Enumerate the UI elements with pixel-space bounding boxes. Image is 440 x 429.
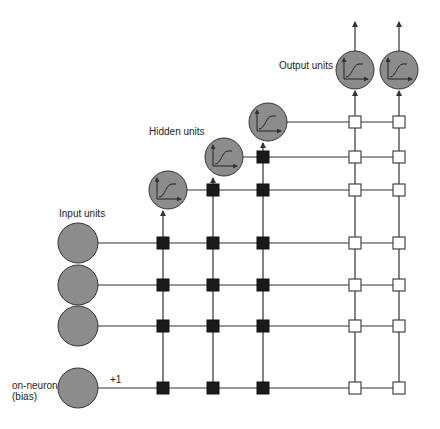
output-units-label: Output units <box>279 60 333 71</box>
weight-square <box>257 237 269 249</box>
hidden-neuron-2 <box>205 138 243 176</box>
weight-square <box>349 279 361 291</box>
weight-square <box>349 184 361 196</box>
hidden-neuron-1 <box>149 171 187 209</box>
input-neuron-2 <box>58 265 98 305</box>
weight-square <box>207 382 219 394</box>
weight-square <box>349 237 361 249</box>
weight-square <box>349 116 361 128</box>
weight-square <box>349 382 361 394</box>
input-neuron-1 <box>58 223 98 263</box>
weight-square <box>393 184 405 196</box>
weight-square <box>207 279 219 291</box>
weight-square <box>257 382 269 394</box>
weight-square <box>207 237 219 249</box>
weight-square <box>257 184 269 196</box>
weight-square <box>207 184 219 196</box>
input-neuron-3 <box>58 306 98 346</box>
bias-neuron <box>58 368 98 408</box>
weight-square <box>393 116 405 128</box>
output-weights <box>349 116 405 394</box>
neural-network-diagram: Output units Hidden units Input units on… <box>0 0 440 429</box>
weight-square <box>349 151 361 163</box>
bias-label-line1: on-neuron <box>12 380 58 391</box>
weight-square <box>257 279 269 291</box>
output-neuron-1 <box>336 51 374 89</box>
input-units-label: Input units <box>59 208 105 219</box>
output-neuron-2 <box>380 51 418 89</box>
weight-square <box>257 151 269 163</box>
weight-square <box>257 320 269 332</box>
weight-square <box>393 237 405 249</box>
weight-square <box>207 320 219 332</box>
hidden-neuron-3 <box>249 103 287 141</box>
weight-square <box>393 279 405 291</box>
output-layer <box>336 51 418 89</box>
weight-square <box>157 382 169 394</box>
weight-square <box>157 320 169 332</box>
hidden-units-label: Hidden units <box>149 126 205 137</box>
bias-value-label: +1 <box>110 374 122 385</box>
weight-square <box>157 279 169 291</box>
weight-square <box>157 237 169 249</box>
input-layer <box>58 223 98 408</box>
weight-square <box>393 320 405 332</box>
bias-label-line2: (bias) <box>12 391 37 402</box>
weight-square <box>393 151 405 163</box>
weight-square <box>393 382 405 394</box>
weight-square <box>349 320 361 332</box>
